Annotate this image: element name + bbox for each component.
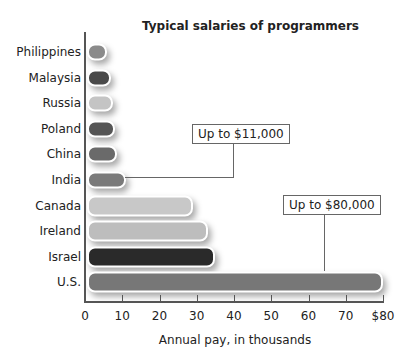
x-tick [309,295,310,302]
bar [87,120,115,137]
x-tick-label: 10 [115,309,130,323]
bar [87,146,117,163]
chart-title: Typical salaries of programmers [142,19,359,33]
x-tick-label: 60 [301,309,316,323]
x-tick-label: 70 [338,309,353,323]
category-label: Malaysia [29,71,81,85]
category-label: U.S. [57,275,81,289]
x-tick [383,295,384,302]
leader-line [324,215,325,271]
bar [87,195,193,216]
category-label: India [52,173,81,187]
y-axis [84,32,86,302]
leader-line [125,177,234,178]
annotation-callout: Up to $80,000 [283,195,381,215]
x-tick-label: 20 [152,309,167,323]
leader-line [233,144,234,177]
x-tick [271,295,272,302]
category-label: Israel [48,250,81,264]
x-tick-label: 30 [189,309,204,323]
x-tick [234,295,235,302]
bar [87,246,215,267]
bar [87,221,208,242]
chart: Typical salaries of programmers Philippi… [0,0,415,358]
x-tick [160,295,161,302]
x-axis-label: Annual pay, in thousands [0,333,415,347]
category-label: China [47,147,81,161]
x-tick [122,295,123,302]
category-label: Poland [41,122,81,136]
bar [87,69,111,86]
bar [87,95,113,112]
bar [87,44,107,61]
category-label: Philippines [16,45,81,59]
annotation-callout: Up to $11,000 [192,124,290,144]
x-tick-label: 40 [226,309,241,323]
category-label: Ireland [39,224,81,238]
x-tick-label: $80 [372,309,395,323]
x-tick [197,295,198,302]
bar [87,272,383,293]
x-tick-label: 50 [264,309,279,323]
category-label: Canada [35,199,81,213]
bar [87,172,126,189]
x-tick-label: 0 [81,309,89,323]
category-label: Russia [42,96,81,110]
x-tick [346,295,347,302]
